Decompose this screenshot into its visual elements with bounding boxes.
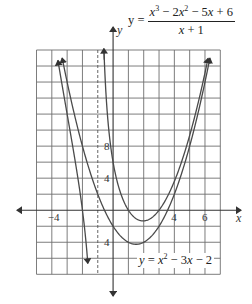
y-axis-label: y: [116, 23, 123, 37]
fraction: x3 − 2x2 − 5x + 6 x + 1: [148, 5, 235, 38]
curves: [58, 49, 210, 264]
term: − 3: [167, 253, 187, 267]
x-tick-label: 4: [171, 211, 177, 223]
grid: [37, 50, 221, 274]
y-tick-label: 4: [104, 236, 110, 248]
rational-function-equation: y = x3 − 2x2 − 5x + 6 x + 1: [128, 5, 235, 38]
term: + 6: [213, 5, 233, 19]
equation-lhs: y =: [128, 13, 144, 27]
term: − 5: [188, 5, 208, 19]
x-tick-label: −4: [48, 211, 60, 223]
numerator: x3 − 2x2 − 5x + 6: [148, 5, 235, 22]
x-tick-label: 6: [202, 211, 208, 223]
term: − 2: [159, 5, 179, 19]
curve-arrow: [62, 58, 63, 61]
term: + 1: [184, 23, 204, 37]
x-axis-label: x: [235, 211, 242, 225]
y-tick-label: 8: [104, 140, 110, 152]
term: =: [145, 253, 158, 267]
graph: −446844 x y: [0, 0, 252, 304]
parabola-equation: y = x2 − 3x − 2: [137, 253, 214, 268]
term: − 2: [193, 253, 213, 267]
parabola-curve: [62, 58, 210, 244]
denominator: x + 1: [148, 22, 235, 38]
y-tick-label: 4: [104, 172, 110, 184]
